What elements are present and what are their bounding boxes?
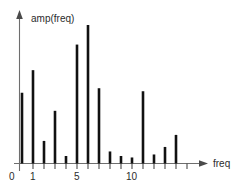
- x-tick-label-5: 5: [74, 171, 80, 182]
- x-axis-title: freq: [213, 158, 230, 169]
- x-tick-label-10: 10: [126, 171, 138, 182]
- spectrum-bars: [22, 25, 176, 164]
- y-axis-arrowhead: [16, 10, 23, 19]
- x-axis-arrowhead: [199, 160, 208, 167]
- x-tick-label-1: 1: [30, 171, 36, 182]
- y-axis-title: amp(freq): [31, 13, 74, 24]
- frequency-amplitude-spectrum-figure: amp(freq) freq 0 1 5 10: [0, 0, 251, 192]
- spectrum-plot: amp(freq) freq 0 1 5 10: [0, 0, 251, 192]
- x-axis-ticks: [33, 164, 187, 170]
- x-tick-label-0: 0: [9, 171, 15, 182]
